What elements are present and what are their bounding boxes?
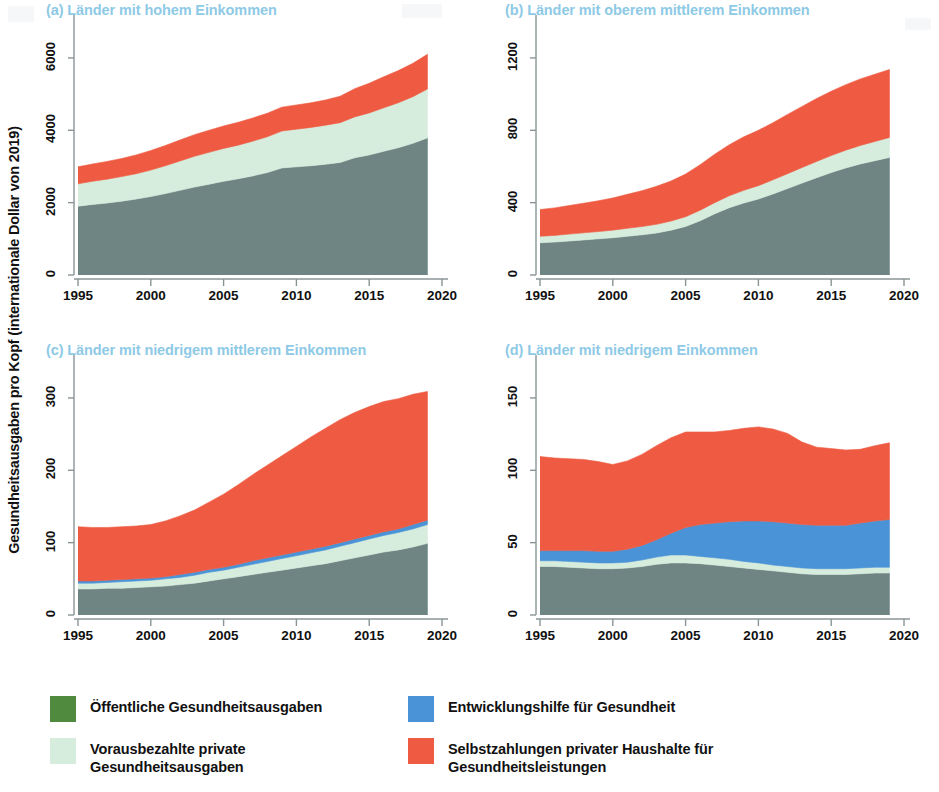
y-tick-label: 300: [34, 389, 66, 404]
y-tick-label: 0: [496, 266, 528, 281]
y-tick-label: 150: [496, 389, 528, 404]
plot-area-a: [78, 29, 442, 275]
y-tick-label: 0: [34, 266, 66, 281]
y-tick-label: 800: [496, 121, 528, 136]
panel-title-c: (c) Länder mit niedrigem mittlerem Einko…: [46, 342, 366, 358]
y-tick-label: 100: [34, 534, 66, 549]
x-tick-label: 2015: [816, 288, 846, 303]
plot-area-c: [78, 369, 442, 615]
x-tick-label: 2015: [354, 628, 384, 643]
x-tick-label: 2010: [281, 628, 311, 643]
legend-label-prepaid_private: Vorausbezahlte private Gesundheitsausgab…: [90, 738, 245, 776]
legend-item-public[interactable]: Öffentliche Gesundheitsausgaben: [50, 696, 322, 722]
chart-panel-d: (d) Länder mit niedrigem Einkommen050100…: [492, 342, 932, 672]
y-tick-label: 200: [34, 461, 66, 476]
area-chart-a: [78, 29, 442, 275]
y-tick-label: 6000: [34, 49, 66, 64]
legend-label-out_of_pocket: Selbstzahlungen privater Haushalte für G…: [448, 738, 713, 776]
panel-title-b: (b) Länder mit oberem mittlerem Einkomme…: [505, 2, 810, 18]
x-tick-label: 2020: [889, 628, 919, 643]
y-tick-label: 400: [496, 194, 528, 209]
legend-label-development_aid: Entwicklungshilfe für Gesundheit: [448, 696, 675, 716]
y-tick-label: 100: [496, 461, 528, 476]
x-tick-label: 2020: [889, 288, 919, 303]
x-tick-label: 2010: [743, 628, 773, 643]
x-tick-label: 2010: [281, 288, 311, 303]
panel-title-a: (a) Länder mit hohem Einkommen: [46, 2, 277, 18]
x-tick-label: 1995: [63, 288, 93, 303]
y-axis-label: Gesundheitsausgaben pro Kopf (internatio…: [0, 0, 28, 680]
x-tick-label: 2015: [816, 628, 846, 643]
y-tick-label: 50: [496, 534, 528, 549]
x-tick-label: 2005: [671, 628, 701, 643]
plot-area-b: [540, 29, 904, 275]
x-tick-label: 2000: [136, 628, 166, 643]
y-tick-label: 0: [496, 606, 528, 621]
x-tick-label: 2000: [136, 288, 166, 303]
legend-swatch-prepaid_private: [50, 738, 76, 764]
area-chart-b: [540, 29, 904, 275]
legend-swatch-development_aid: [408, 696, 434, 722]
legend-label-public: Öffentliche Gesundheitsausgaben: [90, 696, 322, 716]
x-tick-label: 2005: [209, 288, 239, 303]
y-tick-label: 4000: [34, 121, 66, 136]
x-tick-label: 2000: [598, 628, 628, 643]
chart-panel-c: (c) Länder mit niedrigem mittlerem Einko…: [30, 342, 470, 672]
area-chart-d: [540, 369, 904, 615]
y-tick-label: 0: [34, 606, 66, 621]
legend-item-prepaid_private[interactable]: Vorausbezahlte private Gesundheitsausgab…: [50, 738, 245, 776]
legend-swatch-out_of_pocket: [408, 738, 434, 764]
x-tick-label: 1995: [63, 628, 93, 643]
panel-title-d: (d) Länder mit niedrigem Einkommen: [505, 342, 758, 358]
figure-root: Gesundheitsausgaben pro Kopf (internatio…: [0, 0, 939, 792]
x-tick-label: 2005: [671, 288, 701, 303]
plot-area-d: [540, 369, 904, 615]
y-tick-label: 1200: [496, 49, 528, 64]
x-tick-label: 2020: [427, 288, 457, 303]
x-tick-label: 2010: [743, 288, 773, 303]
x-tick-label: 2015: [354, 288, 384, 303]
chart-panel-a: (a) Länder mit hohem Einkommen0200040006…: [30, 2, 470, 332]
legend-item-development_aid[interactable]: Entwicklungshilfe für Gesundheit: [408, 696, 675, 722]
x-tick-label: 1995: [525, 288, 555, 303]
x-tick-label: 2005: [209, 628, 239, 643]
legend-swatch-public: [50, 696, 76, 722]
legend-item-out_of_pocket[interactable]: Selbstzahlungen privater Haushalte für G…: [408, 738, 713, 776]
legend: Öffentliche GesundheitsausgabenVorausbez…: [0, 690, 939, 792]
y-axis-label-text: Gesundheitsausgaben pro Kopf (internatio…: [6, 126, 22, 554]
x-tick-label: 2020: [427, 628, 457, 643]
chart-panel-b: (b) Länder mit oberem mittlerem Einkomme…: [492, 2, 932, 332]
y-tick-label: 2000: [34, 194, 66, 209]
area-chart-c: [78, 369, 442, 615]
x-tick-label: 2000: [598, 288, 628, 303]
x-tick-label: 1995: [525, 628, 555, 643]
